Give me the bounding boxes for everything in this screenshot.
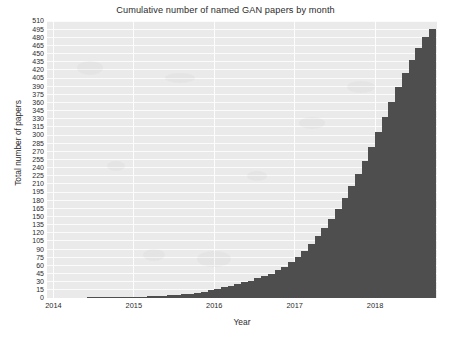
chart-figure: Cumulative number of named GAN papers by…	[0, 0, 451, 339]
x-tick-label: 2017	[275, 301, 315, 310]
x-tick-label: 2016	[194, 301, 234, 310]
x-axis-tick-labels: 20142015201620172018	[0, 0, 451, 339]
x-axis-label: Year	[47, 317, 437, 327]
x-tick-label: 2015	[114, 301, 154, 310]
x-tick-label: 2014	[33, 301, 73, 310]
y-axis-label: Total number of papers	[13, 63, 23, 223]
x-tick-label: 2018	[355, 301, 395, 310]
